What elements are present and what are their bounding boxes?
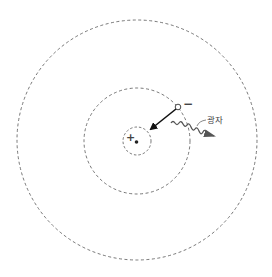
nucleus-dot	[135, 140, 139, 144]
electron-charge-label: −	[183, 97, 193, 111]
outer-orbit	[17, 20, 257, 260]
atom-photon-emission-diagram: + − 광자	[0, 0, 272, 277]
electron	[175, 104, 181, 110]
photon-label-leader	[197, 120, 206, 126]
photon-label: 광자	[207, 115, 223, 125]
electron-transition-arrow	[151, 109, 176, 129]
nucleus-charge-label: +	[126, 131, 135, 144]
